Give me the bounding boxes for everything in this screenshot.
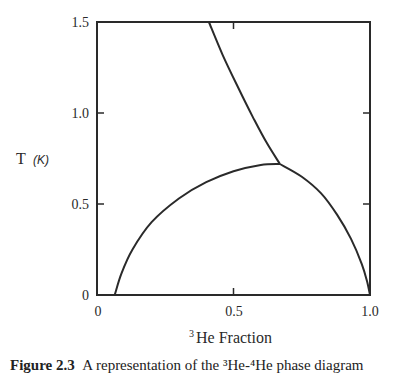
figure-caption: Figure 2.3 A representation of the ³He-⁴… [10, 356, 364, 374]
y-tick-label-1.5: 1.5 [72, 15, 90, 30]
caption-label: Figure 2.3 [10, 357, 75, 373]
y-tick-label-0.5: 0.5 [72, 197, 90, 212]
y-tick-label-1.0: 1.0 [72, 106, 90, 121]
x-tick-label-0: 0 [95, 304, 102, 319]
x-axis-label-text: He Fraction [196, 329, 272, 346]
x-axis-label: 3 He Fraction [189, 328, 272, 346]
x-tick-label-1.0: 1.0 [361, 304, 379, 319]
y-axis-unit: (K) [33, 153, 49, 167]
y-ticks [97, 113, 370, 204]
phase-separation-curve [115, 164, 370, 295]
y-axis-symbol: T [16, 150, 26, 167]
lambda-line-curve [209, 22, 280, 164]
x-tick-label-0.5: 0.5 [225, 304, 243, 319]
y-tick-label-0: 0 [82, 288, 89, 303]
y-axis-label: T (K) [16, 150, 49, 167]
plot-frame [97, 22, 370, 295]
x-axis-label-superscript: 3 [189, 328, 194, 339]
caption-text: A representation of the ³He-⁴He phase di… [82, 357, 363, 373]
